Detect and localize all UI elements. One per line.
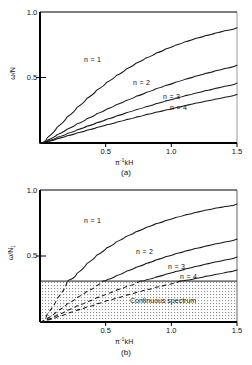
panel-a-xtick-1.0: 1.0: [162, 147, 180, 156]
panel-b-xtick-0.5: 0.5: [97, 326, 115, 335]
panel-b-y-axis-label: ω/N1: [7, 245, 16, 260]
panel-a-x-axis-label: π-1kH: [115, 158, 133, 166]
panel-a-y-axis-label: ω/N: [9, 67, 16, 79]
panel-a-xtick-1.5: 1.5: [228, 147, 246, 156]
panel-a-curve-label-n3: n = 3: [163, 93, 180, 100]
panel-a-plot: [0, 0, 252, 182]
panel-b-ytick-0.5: 0.5: [24, 251, 40, 260]
panel-b-caption: (b): [0, 348, 252, 357]
panel-b-x-axis-label: π-1kH: [115, 337, 133, 345]
panel-a-xtick-0.5: 0.5: [97, 147, 115, 156]
panel-a-curve-label-n4: n = 4: [170, 104, 187, 111]
panel-b-continuous-spectrum-label: Continuous spectrum: [130, 297, 196, 304]
panel-b-curve-label-n2: n = 2: [136, 248, 153, 255]
panel-b-xtick-1.5: 1.5: [228, 326, 246, 335]
panel-b-curve-label-n1: n = 1: [84, 217, 101, 224]
panel-a: ω/N 1.0 0.5 0.5 1.0 1.5 π-1kH n = 1 n = …: [0, 0, 252, 182]
panel-b-curve-label-n4: n = 4: [180, 273, 197, 280]
panel-a-caption: (a): [0, 168, 252, 177]
panel-b-xtick-1.0: 1.0: [162, 326, 180, 335]
panel-a-curve-label-n1: n = 1: [84, 56, 101, 63]
panel-a-ytick-0.5: 0.5: [24, 73, 40, 82]
figure-dispersion-curves: ω/N 1.0 0.5 0.5 1.0 1.5 π-1kH n = 1 n = …: [0, 0, 252, 365]
panel-b-curve-label-n3: n = 3: [168, 263, 185, 270]
panel-b: ω/N1 1.0 0.5 0.5 1.0 1.5 π-1kH n = 1 n =…: [0, 180, 252, 365]
panel-a-curve-label-n2: n = 2: [133, 79, 150, 86]
panel-a-ytick-1.0: 1.0: [24, 8, 40, 17]
panel-b-ytick-1.0: 1.0: [24, 186, 40, 195]
